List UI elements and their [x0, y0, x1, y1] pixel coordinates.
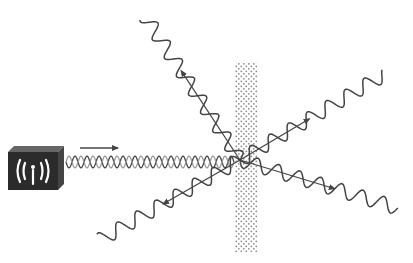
ray-lower-left-wave: [97, 156, 240, 239]
ray-lower-right-wave: [240, 158, 398, 213]
source-box-side: [58, 146, 64, 190]
ray-upper-left-arrow: [181, 71, 240, 160]
radio-source: [8, 146, 64, 190]
scattering-diagram: [0, 0, 413, 263]
ray-lower-left-arrow: [163, 160, 240, 204]
ray-upper-left-wave: [140, 20, 243, 160]
source-box-top: [8, 146, 64, 152]
diagram-canvas: [0, 0, 413, 263]
ray-upper-right-wave: [240, 70, 382, 164]
